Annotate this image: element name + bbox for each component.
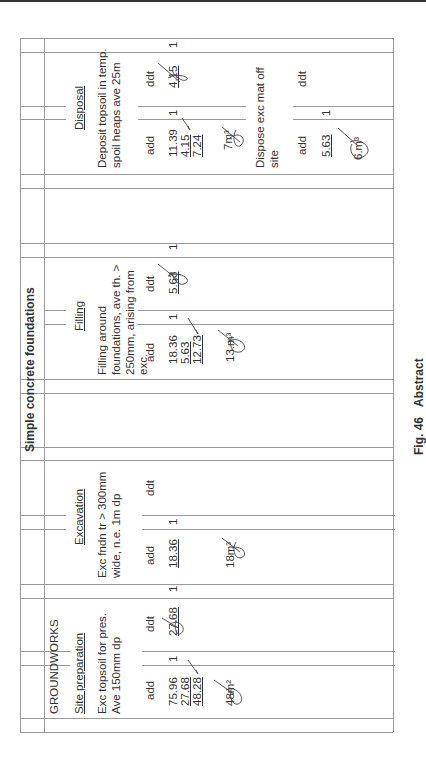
- figure-caption: Fig. 46 Abstract: [413, 358, 426, 455]
- figure-label: Abstract: [412, 358, 426, 407]
- figure-number: Fig. 46: [412, 417, 426, 455]
- checkmark-annotations-icon: [0, 0, 426, 766]
